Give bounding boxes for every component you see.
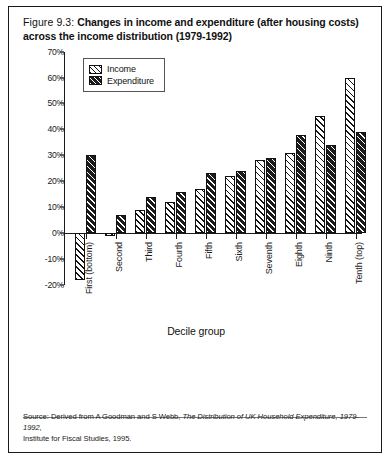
legend-swatch-expenditure-icon — [89, 76, 102, 85]
x-tick-mark — [206, 233, 207, 239]
y-tick-mark — [60, 103, 64, 104]
figure-frame: Figure 9.3: Changes in income and expend… — [8, 6, 382, 453]
x-tick-mark — [326, 233, 327, 239]
x-tick-mark — [176, 233, 177, 239]
x-axis-title: Decile group — [9, 325, 383, 337]
legend-item-expenditure: Expenditure — [89, 76, 154, 86]
source-line2: Institute for Fiscal Studies, 1995. — [23, 434, 131, 443]
bar-income-6 — [225, 176, 236, 233]
x-tick-label: Seventh — [264, 242, 274, 274]
bar-expenditure-2 — [116, 215, 127, 233]
x-tick-mark — [146, 233, 147, 239]
x-tick-label: Second — [114, 242, 124, 272]
y-tick-mark — [60, 207, 64, 208]
figure-title: Changes in income and expenditure (after… — [23, 16, 359, 42]
y-tick-mark — [60, 129, 64, 130]
x-tick-mark — [236, 233, 237, 239]
bar-income-9 — [315, 116, 326, 233]
bar-expenditure-9 — [326, 145, 337, 233]
bar-income-8 — [285, 153, 296, 233]
x-tick-label: Fourth — [174, 242, 184, 267]
source-note: Source: Derived from A Goodman and S Web… — [23, 411, 367, 444]
y-tick-mark — [60, 155, 64, 156]
x-tick-mark — [356, 233, 357, 239]
x-tick-mark — [86, 233, 87, 239]
bar-expenditure-1 — [86, 155, 97, 233]
y-tick-mark — [60, 77, 64, 78]
y-tick-mark — [60, 51, 64, 52]
bar-income-3 — [135, 210, 146, 233]
bar-income-10 — [345, 78, 356, 233]
x-tick-label: Ninth — [324, 242, 334, 263]
x-tick-label: Sixth — [234, 242, 244, 262]
x-tick-label: Tenth (top) — [354, 242, 364, 284]
legend-item-income: Income — [89, 64, 154, 74]
legend-label-income: Income — [107, 64, 136, 74]
bar-expenditure-8 — [296, 135, 307, 233]
bar-income-4 — [165, 202, 176, 233]
x-tick-mark — [266, 233, 267, 239]
x-tick-label: Eighth — [294, 242, 304, 267]
bar-expenditure-6 — [236, 171, 247, 233]
bar-income-5 — [195, 189, 206, 233]
figure-number: Figure 9.3: — [23, 16, 74, 28]
chart-area: 70%60%50%40%30%20%10%0%-10%-20% First (b… — [9, 46, 383, 376]
figure-page: Figure 9.3: Changes in income and expend… — [0, 0, 390, 459]
source-prefix: Source: Derived from A Goodman and S Web… — [23, 412, 182, 421]
legend-label-expenditure: Expenditure — [107, 76, 154, 86]
x-tick-label: First (bottom) — [84, 242, 94, 294]
bar-income-7 — [255, 160, 266, 232]
bar-expenditure-7 — [266, 158, 277, 233]
bar-expenditure-5 — [206, 173, 217, 233]
bar-expenditure-10 — [356, 132, 367, 233]
bar-expenditure-4 — [176, 192, 187, 233]
y-tick-mark — [60, 181, 64, 182]
bar-expenditure-3 — [146, 197, 157, 233]
x-tick-label: Third — [144, 242, 154, 262]
x-tick-mark — [296, 233, 297, 239]
legend-swatch-income-icon — [89, 65, 102, 74]
x-tick-mark — [116, 233, 117, 239]
chart-legend: Income Expenditure — [83, 58, 165, 93]
figure-caption: Figure 9.3: Changes in income and expend… — [9, 7, 381, 46]
x-axis-labels: First (bottom)SecondThirdFourthFifthSixt… — [64, 242, 362, 322]
x-tick-label: Fifth — [204, 242, 214, 259]
